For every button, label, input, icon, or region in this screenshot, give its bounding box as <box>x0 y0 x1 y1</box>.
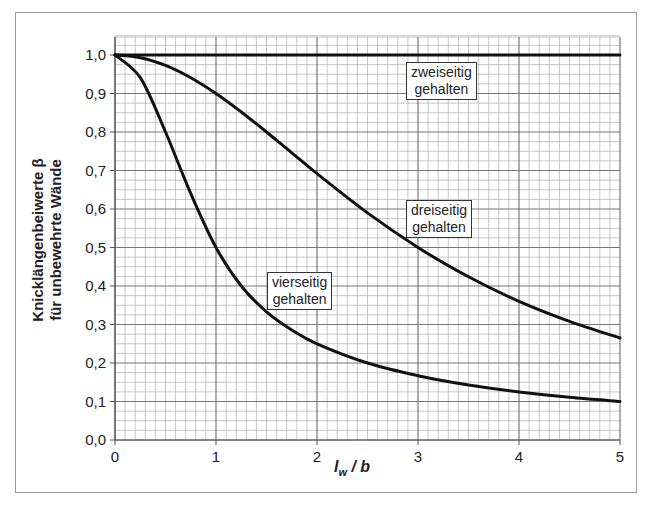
y-tick-label: 0,7 <box>85 162 106 179</box>
y-tick-label: 0,9 <box>85 85 106 102</box>
annotation-zweiseitig-line2: gehalten <box>411 81 472 98</box>
x-axis-label: lw / b <box>334 458 370 478</box>
annotation-dreiseitig: dreiseitig gehalten <box>406 200 472 238</box>
annotation-dreiseitig-line2: gehalten <box>411 219 467 236</box>
annotation-vierseitig-line1: vierseitig <box>272 274 327 291</box>
x-axis-label-rest: / b <box>347 458 370 475</box>
annotation-vierseitig: vierseitig gehalten <box>267 272 332 310</box>
y-tick-label: 0,8 <box>85 123 106 140</box>
y-axis-ticks: 0,00,10,20,30,40,50,60,70,80,91,0 <box>85 46 115 448</box>
y-tick-label: 0,3 <box>85 316 106 333</box>
x-tick-label: 2 <box>313 448 321 465</box>
y-tick-label: 0,4 <box>85 277 106 294</box>
annotation-zweiseitig: zweiseitig gehalten <box>406 62 477 100</box>
y-tick-label: 0,2 <box>85 354 106 371</box>
x-tick-label: 5 <box>616 448 624 465</box>
annotation-zweiseitig-line1: zweiseitig <box>411 64 472 81</box>
annotation-dreiseitig-line1: dreiseitig <box>411 202 467 219</box>
y-tick-label: 0,5 <box>85 239 106 256</box>
x-tick-label: 4 <box>515 448 523 465</box>
y-tick-label: 0,6 <box>85 200 106 217</box>
y-tick-label: 0,0 <box>85 431 106 448</box>
chart-canvas: 0,00,10,20,30,40,50,60,70,80,91,0 012345… <box>0 0 653 507</box>
annotation-vierseitig-line2: gehalten <box>272 291 327 308</box>
y-tick-label: 0,1 <box>85 393 106 410</box>
grid-minor <box>115 36 620 440</box>
x-tick-label: 1 <box>212 448 220 465</box>
x-tick-label: 0 <box>111 448 119 465</box>
y-axis-label-line1: Knicklängenbeiwerte β <box>29 158 46 321</box>
x-tick-label: 3 <box>414 448 422 465</box>
y-axis-label-line2: für unbewehrte Wände <box>47 159 64 321</box>
y-tick-label: 1,0 <box>85 46 106 63</box>
